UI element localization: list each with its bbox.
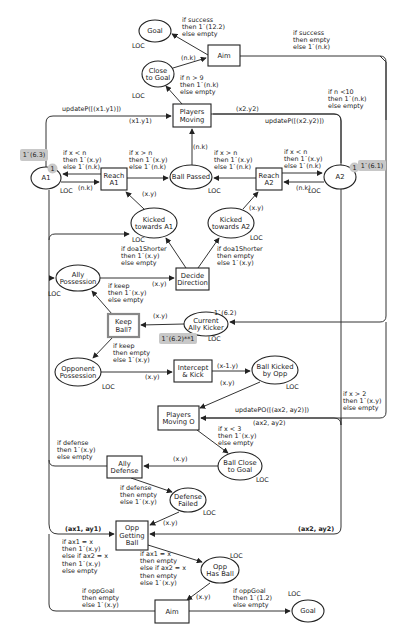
arc-inscriptions-layer: if successthen 1`(12.2)else emptyif succ… xyxy=(57,16,381,609)
transition-aim-bottom[interactable]: Aim xyxy=(155,600,189,623)
place-name: A2 xyxy=(336,173,345,181)
place-kicked-a2[interactable]: Kickedtowards A2LOC xyxy=(208,208,263,242)
arc-inscription: if successthen 1`(12.2)else empty xyxy=(182,16,225,38)
arc-inscription: (x1.y1) xyxy=(129,117,152,125)
label-line: Possession xyxy=(60,278,97,286)
colset-label: LOC xyxy=(288,590,301,598)
arc-inscription: if x > nthen 1`(x.y)else 1`(n.k) xyxy=(214,149,252,171)
colset-label: LOC xyxy=(208,335,221,343)
place-name: CurrentAlly Kicker xyxy=(188,317,224,333)
transition-name: DecideDirection xyxy=(177,272,208,288)
place-opponent-possession[interactable]: OpponentPossessionLOC xyxy=(55,358,115,391)
arc-inscription: if doa1Shorterthen emptyelse 1`(x.y) xyxy=(217,245,263,267)
arc xyxy=(198,238,219,268)
transition-aim-top[interactable]: Aim xyxy=(208,45,240,66)
place-name: A1 xyxy=(42,174,51,182)
label-line: else empty xyxy=(343,404,379,412)
arc-inscription: (x2.y2) xyxy=(236,105,259,113)
label-line: (ax1, ay1) xyxy=(65,525,101,533)
place-opp-has-ball[interactable]: OppHas BallLOC xyxy=(201,552,243,583)
label-line: updatePO([(ax2, ay2)]) xyxy=(235,406,309,414)
arc-inscription: (x.y) xyxy=(142,190,157,198)
label-line: (x-1.y) xyxy=(217,362,238,370)
label-line: Ally Kicker xyxy=(188,324,224,332)
arc-inscription: (x.y) xyxy=(152,280,167,288)
colset-label: LOC xyxy=(203,509,216,517)
label-line: else 1`(n.k) xyxy=(63,163,100,171)
place-ball-close-goal[interactable]: Ball Closeto GoalLOC xyxy=(218,452,269,484)
arc-inscription: (x.y) xyxy=(220,379,235,387)
marking-kicker-current: 1`(6.2)**1 xyxy=(159,333,197,344)
transition-ally-defense[interactable]: AllyDefense xyxy=(107,456,142,478)
place-kicked-a1[interactable]: Kickedtowards A1LOC xyxy=(131,208,177,244)
label-line: else empty xyxy=(62,567,98,575)
label-line: (n.k) xyxy=(296,184,311,192)
label-line: A2 xyxy=(265,179,274,187)
label-line: else empty xyxy=(108,296,144,304)
colset-label: LOC xyxy=(132,236,145,244)
arc-inscription: (x.y) xyxy=(153,312,168,320)
arc xyxy=(141,324,184,325)
label-line: else 1`(n.k) xyxy=(293,43,330,51)
arc-inscription: (x.y) xyxy=(163,519,178,527)
arc-inscription: if defensethen emptyelse 1`(x.y) xyxy=(120,484,157,506)
transition-opp-getting-ball[interactable]: OppGettingBall xyxy=(116,521,148,550)
arc xyxy=(166,238,186,268)
colset-label: LOC xyxy=(208,187,221,195)
label-line: (ax2, ay2) xyxy=(298,525,334,533)
arc-inscription: (ax2, ay2) xyxy=(253,419,286,427)
label-line: Ball? xyxy=(115,326,132,334)
label-line: else empty xyxy=(233,601,269,609)
label-line: Aim xyxy=(165,608,179,616)
transition-decide-direction[interactable]: DecideDirection xyxy=(176,268,209,290)
place-goal-top[interactable]: GoalLOC xyxy=(132,20,171,50)
label-line: (x.y) xyxy=(173,455,188,463)
label-line: (x.y) xyxy=(142,190,157,198)
arc-inscription: updateP([(x1.y1)]) xyxy=(62,105,121,113)
marking-text: 1`(6.2)**1 xyxy=(162,335,195,343)
arc-inscription: (ax1, ay1) xyxy=(65,525,101,533)
label-line: Direction xyxy=(177,279,208,287)
marking-a1-count: 1 xyxy=(48,164,58,174)
transition-keep-ball[interactable]: KeepBall? xyxy=(108,314,139,337)
arc-inscription: if x < nthen 1`(x.y)else 1`(n.k) xyxy=(284,148,322,170)
arc-inscription: if x < 3then 1`(x.y)else empty xyxy=(218,425,256,447)
transition-reach-a1[interactable]: ReachA1 xyxy=(101,168,127,190)
transition-intercept-kick[interactable]: Intercept& Kick xyxy=(174,360,212,382)
transition-name: PlayersMoving O xyxy=(162,411,194,427)
place-close-to-goal[interactable]: Closeto GoalLOC xyxy=(132,61,174,100)
label-line: A2 xyxy=(336,173,345,181)
label-line: else empty xyxy=(182,30,218,38)
arc-inscription: if defensethen 1`(x.y)else empty xyxy=(57,439,95,461)
arc-inscription: 1`(6.2) xyxy=(214,309,236,317)
arc-inscription: (n.k) xyxy=(296,184,311,192)
label-line: else 1`(x.y) xyxy=(82,601,119,609)
transition-reach-a2[interactable]: ReachA2 xyxy=(256,168,282,190)
label-line: to Goal xyxy=(146,74,171,82)
label-line: A1 xyxy=(110,179,119,187)
place-ally-possession[interactable]: AllyPossessionLOC xyxy=(48,265,100,298)
label-line: else 1`(n.k) xyxy=(214,163,251,171)
marking-text: 1`(6.3) xyxy=(23,151,45,159)
label-line: (x.y) xyxy=(196,593,211,601)
label-line: Moving O xyxy=(162,418,194,426)
arc-inscription: if x < nthen 1`(x.y)else 1`(n.k) xyxy=(63,149,101,171)
label-line: Possession xyxy=(60,372,97,380)
place-goal-bottom[interactable]: GoalLOC xyxy=(288,590,324,622)
arc-inscription: if n > 9then 1`(n.k)else empty xyxy=(180,74,219,96)
label-line: (n.k) xyxy=(193,143,208,151)
arc-inscription: if ax1 = xthen emptyelse if ax2 = xthen … xyxy=(140,550,186,587)
transition-players-moving[interactable]: PlayersMoving xyxy=(173,104,211,127)
place-name: OpponentPossession xyxy=(60,365,97,381)
arc-inscription: (x-1.y) xyxy=(217,362,238,370)
label-line: (x1.y1) xyxy=(129,117,152,125)
transition-players-moving-o[interactable]: PlayersMoving O xyxy=(158,406,199,430)
label-line: Ball xyxy=(126,539,139,547)
arc-inscription: if x > nthen 1`(x.y)else 1`(n.k) xyxy=(129,149,167,171)
place-name: Closeto Goal xyxy=(146,67,171,83)
label-line: Defense xyxy=(110,467,138,475)
place-ball-kicked-opp[interactable]: Ball Kickedby OppLOC xyxy=(252,356,299,391)
arc-inscription: (n.k) xyxy=(193,143,208,151)
marking-text: 1`(6.1) xyxy=(361,162,383,170)
label-line: else 1`(n.k) xyxy=(284,162,321,170)
